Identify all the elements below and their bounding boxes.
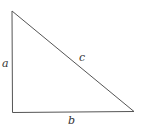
label-a: a: [2, 58, 9, 69]
label-c: c: [79, 52, 85, 63]
side-b: [13, 112, 135, 113]
side-a: [12, 11, 13, 113]
label-b: b: [68, 115, 75, 126]
triangle-diagram: [0, 0, 148, 130]
side-c-hypotenuse: [12, 11, 134, 112]
